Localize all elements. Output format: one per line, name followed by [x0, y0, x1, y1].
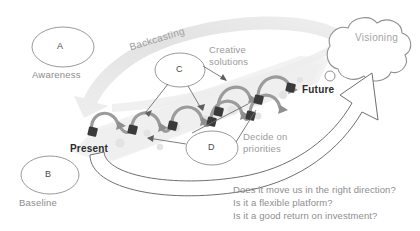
- decide-label-line1: Decide on: [243, 132, 288, 143]
- node-label-b: B: [45, 169, 51, 179]
- diagram-canvas: A Awareness B Baseline C D Backcasting C…: [0, 0, 420, 231]
- connector-c-left: [146, 84, 168, 112]
- future-label: Future: [302, 84, 334, 96]
- decide-label-line2: priorities: [243, 144, 281, 155]
- creative-solutions-label-line2: solutions: [209, 57, 248, 68]
- present-label: Present: [70, 143, 108, 155]
- investment-decision-arrow: [90, 73, 378, 196]
- node-label-c: C: [176, 64, 183, 74]
- visioning-cloud[interactable]: [325, 18, 411, 81]
- node-caption-awareness: Awareness: [32, 70, 81, 81]
- node-label-d: D: [208, 142, 215, 152]
- node-caption-baseline: Baseline: [19, 198, 57, 209]
- question-1: Does it move us in the right direction?: [233, 185, 396, 196]
- connector-d-left: [148, 138, 186, 144]
- question-3: Is it a good return on investment?: [233, 211, 377, 222]
- creative-solutions-label-line1: Creative: [209, 45, 246, 56]
- question-2: Is it a flexible platform?: [233, 198, 333, 209]
- node-label-a: A: [57, 41, 63, 51]
- visioning-label: Visioning: [355, 32, 398, 44]
